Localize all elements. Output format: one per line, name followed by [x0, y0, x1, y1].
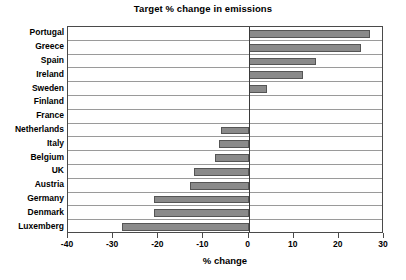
x-tick-label: 10	[273, 239, 313, 249]
x-tick-mark	[112, 233, 113, 238]
y-axis-label: Belgium	[0, 152, 64, 162]
y-axis-label: Spain	[0, 55, 64, 65]
y-axis-label: France	[0, 110, 64, 120]
x-tick-mark	[383, 233, 384, 238]
x-tick-label: 30	[363, 239, 403, 249]
y-axis-label: Italy	[0, 138, 64, 148]
y-axis-label: Austria	[0, 179, 64, 189]
y-axis-label: Netherlands	[0, 124, 64, 134]
x-tick-label: 20	[318, 239, 358, 249]
y-axis-label: Denmark	[0, 207, 64, 217]
y-axis-label: Portugal	[0, 27, 64, 37]
x-tick-label: 0	[228, 239, 268, 249]
y-axis-label: Germany	[0, 193, 64, 203]
x-tick-mark	[293, 233, 294, 238]
x-tick-label: -10	[182, 239, 222, 249]
y-axis-label: Luxemberg	[0, 221, 64, 231]
x-tick-mark	[157, 233, 158, 238]
x-tick-mark	[338, 233, 339, 238]
y-axis-label: UK	[0, 165, 64, 175]
y-axis-label: Sweden	[0, 83, 64, 93]
x-tick-label: -20	[137, 239, 177, 249]
x-tick-mark	[67, 233, 68, 238]
y-axis-label: Ireland	[0, 69, 64, 79]
x-tick-label: -40	[47, 239, 87, 249]
y-axis-label: Greece	[0, 41, 64, 51]
y-axis-labels: PortugalGreeceSpainIrelandSwedenFinlandF…	[0, 0, 406, 280]
emissions-bar-chart: Target % change in emissions PortugalGre…	[0, 0, 406, 280]
x-axis-title: % change	[67, 255, 383, 266]
x-tick-label: -30	[92, 239, 132, 249]
x-tick-mark	[202, 233, 203, 238]
y-axis-label: Finland	[0, 96, 64, 106]
x-tick-mark	[248, 233, 249, 238]
